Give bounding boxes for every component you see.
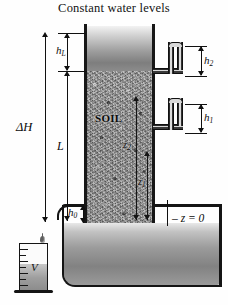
hL-arrow-up <box>64 33 70 38</box>
figure-canvas: Constant water levels SOIL V hL ΔH <box>0 0 228 305</box>
L-dimension-line <box>67 73 68 221</box>
h1-arrow-up <box>198 104 204 109</box>
cylinder-graduation <box>20 267 26 268</box>
h0-arrow-down <box>80 218 86 223</box>
z2-dimension-line <box>136 98 137 220</box>
z1-arrow-down <box>144 215 150 220</box>
h1-subscript: 1 <box>210 116 214 125</box>
piezometer-2-top-bend <box>168 42 183 47</box>
deltaH-label: ΔH <box>16 120 32 135</box>
h2-lower-extension-line <box>185 76 207 77</box>
z1-arrow-up <box>144 151 150 156</box>
hL-lower-extension-line <box>58 71 87 72</box>
h2-arrow-down <box>198 71 204 76</box>
z1-dimension-line <box>147 153 148 220</box>
h2-arrow-up <box>198 46 204 51</box>
cylinder-graduation <box>20 255 26 256</box>
cylinder-graduation <box>20 261 28 262</box>
z2-subscript: 2 <box>127 143 131 152</box>
water-droplet <box>40 236 45 243</box>
h2-subscript: 2 <box>210 59 214 68</box>
h0-label: h0 <box>68 206 77 220</box>
h1-label: h1 <box>204 111 213 125</box>
deltaH-arrow-up <box>42 32 48 37</box>
L-label: L <box>57 139 64 154</box>
cylinder-graduation <box>20 273 28 274</box>
deltaH-dimension-line <box>45 34 46 222</box>
h2-label: h2 <box>204 54 213 68</box>
lower-reservoir-top-right-rim <box>155 204 222 207</box>
piezometer-1-top-bend <box>168 98 183 103</box>
lower-reservoir-right-wall <box>219 204 222 287</box>
upper-tank-water <box>86 26 153 72</box>
z2-arrow-up <box>133 96 139 101</box>
z1-label: z1 <box>138 176 146 189</box>
h1-lower-extension-line <box>185 133 207 134</box>
cylinder-graduation <box>20 249 28 250</box>
deltaH-arrow-down <box>42 217 48 222</box>
z1-subscript: 1 <box>142 180 146 189</box>
hL-upper-extension-line <box>58 33 86 34</box>
soil-label: SOIL <box>95 112 123 124</box>
figure-title: Constant water levels <box>0 1 228 16</box>
h0-subscript: 0 <box>74 211 78 220</box>
hL-subscript: L <box>62 49 66 58</box>
datum-extension-line <box>167 200 168 226</box>
cylinder-graduation <box>20 279 26 280</box>
cylinder-graduation <box>20 285 28 286</box>
hL-label: hL <box>56 44 66 58</box>
hL-dimension-line <box>67 34 68 70</box>
L-arrow-up <box>64 71 70 76</box>
z2-label: z2 <box>123 139 131 152</box>
z2-arrow-down <box>133 215 139 220</box>
tank-wall-left <box>84 24 87 224</box>
cylinder-base <box>14 290 53 293</box>
h1-arrow-down <box>198 128 204 133</box>
collected-volume-label: V <box>31 261 38 273</box>
datum-label: – z = 0 <box>172 212 204 224</box>
soil-column <box>87 71 152 223</box>
h0-arrow-up <box>80 205 86 210</box>
